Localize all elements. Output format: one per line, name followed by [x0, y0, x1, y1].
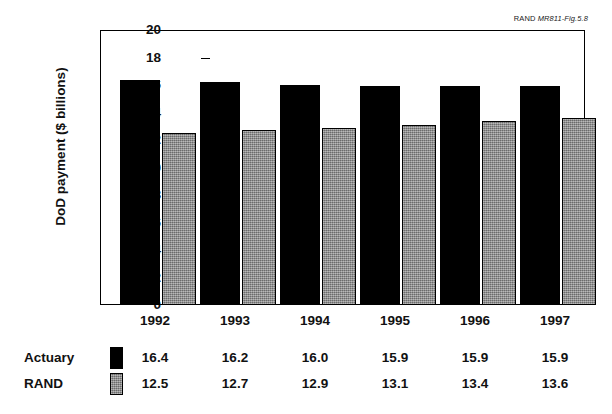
table-header-year: 1994 [275, 313, 355, 328]
table-cell: 16.0 [275, 350, 355, 365]
table-header-year: 1996 [435, 313, 515, 328]
source-credit-ref: MR811-Fig.5.8 [538, 14, 588, 23]
table-header-year: 1995 [355, 313, 435, 328]
bar-rand [162, 133, 196, 305]
bar-group [200, 30, 276, 305]
table-cell: 12.7 [195, 376, 275, 391]
bar-group [520, 30, 596, 305]
figure-bar-chart-dod-payment: RAND MR811-Fig.5.8 DoD payment ($ billio… [0, 0, 612, 414]
bar-rand [562, 118, 596, 305]
table-header-year: 1992 [115, 313, 195, 328]
source-credit-prefix: RAND [514, 14, 538, 23]
table-cell: 15.9 [355, 350, 435, 365]
source-credit: RAND MR811-Fig.5.8 [514, 14, 588, 23]
bar-rand [482, 121, 516, 305]
table-cell: 12.5 [115, 376, 195, 391]
table-cell: 15.9 [515, 350, 595, 365]
bar-group [360, 30, 436, 305]
bar-rand [242, 130, 276, 305]
table-cell: 13.4 [435, 376, 515, 391]
table-cell: 13.1 [355, 376, 435, 391]
bars-layer [100, 30, 585, 305]
bar-group [440, 30, 516, 305]
bar-group [120, 30, 196, 305]
table-cell: 12.9 [275, 376, 355, 391]
data-table: 199219931994199519961997Actuary16.416.21… [0, 305, 612, 414]
bar-rand [322, 128, 356, 305]
bar-actuary [440, 86, 480, 305]
y-axis-title: DoD payment ($ billions) [53, 12, 68, 282]
bar-group [280, 30, 356, 305]
bar-actuary [520, 86, 560, 305]
bar-actuary [200, 82, 240, 305]
table-cell: 16.2 [195, 350, 275, 365]
bar-rand [402, 125, 436, 305]
bar-actuary [280, 85, 320, 305]
table-header-year: 1997 [515, 313, 595, 328]
table-cell: 16.4 [115, 350, 195, 365]
bar-actuary [360, 86, 400, 305]
table-row-label: Actuary [24, 350, 74, 365]
bar-actuary [120, 80, 160, 306]
table-cell: 13.6 [515, 376, 595, 391]
table-header-year: 1993 [195, 313, 275, 328]
table-cell: 15.9 [435, 350, 515, 365]
table-row-label: RAND [24, 376, 63, 391]
